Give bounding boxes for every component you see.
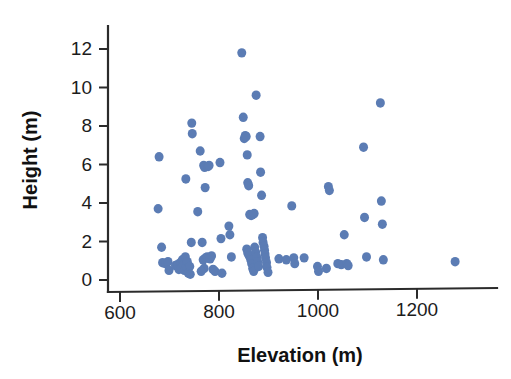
data-points-layer [154, 48, 460, 279]
y-axis-title: Height (m) [19, 111, 41, 210]
data-point [256, 167, 265, 176]
axis-lines [108, 26, 497, 292]
data-point [287, 201, 296, 210]
x-tick-label: 600 [104, 302, 136, 323]
y-tick-label: 6 [81, 154, 92, 175]
data-point [154, 204, 163, 213]
data-point [244, 181, 253, 190]
data-point [344, 261, 353, 270]
data-point [362, 252, 371, 261]
data-point [254, 262, 263, 271]
data-point [250, 209, 259, 218]
data-point [242, 132, 251, 141]
data-point [186, 270, 195, 279]
data-point [198, 238, 207, 247]
plot-canvas: 024681012 60080010001200 Elevation (m) H… [0, 0, 511, 379]
y-tick-label: 10 [71, 77, 92, 98]
data-point [155, 152, 164, 161]
y-tick-label: 12 [71, 38, 92, 59]
data-point [237, 48, 246, 57]
x-tick-label: 1000 [297, 300, 339, 321]
data-point [314, 267, 323, 276]
data-point [359, 142, 368, 151]
scatter-plot-figure: 024681012 60080010001200 Elevation (m) H… [0, 0, 511, 379]
x-axis-title: Elevation (m) [237, 344, 363, 366]
data-point [201, 183, 210, 192]
data-point [197, 267, 206, 276]
data-point [360, 213, 369, 222]
y-tick-label: 8 [81, 115, 92, 136]
data-point [252, 90, 261, 99]
data-point [377, 196, 386, 205]
data-point [300, 253, 309, 262]
data-point [225, 230, 234, 239]
data-point [451, 257, 460, 266]
data-point [187, 118, 196, 127]
data-point [207, 251, 216, 260]
data-point [239, 113, 248, 122]
data-point [196, 146, 205, 155]
x-axis-ticks: 60080010001200 [104, 289, 438, 324]
x-axis-line [108, 288, 497, 292]
data-point [227, 252, 236, 261]
data-point [256, 132, 265, 141]
data-point [325, 186, 334, 195]
data-point [257, 191, 266, 200]
data-point [193, 207, 202, 216]
data-point [379, 255, 388, 264]
y-tick-label: 0 [81, 269, 92, 290]
data-point [181, 174, 190, 183]
data-point [188, 129, 197, 138]
data-point [217, 269, 226, 278]
data-point [376, 98, 385, 107]
data-point [290, 259, 299, 268]
y-tick-label: 4 [81, 192, 92, 213]
y-tick-label: 2 [81, 231, 92, 252]
y-axis-ticks: 024681012 [71, 38, 108, 290]
data-point [243, 150, 252, 159]
x-tick-label: 800 [203, 301, 235, 322]
data-point [157, 243, 166, 252]
data-point [216, 234, 225, 243]
data-point [224, 221, 233, 230]
data-point [378, 219, 387, 228]
x-tick-label: 1200 [396, 299, 438, 320]
data-point [215, 158, 224, 167]
data-point [264, 268, 273, 277]
data-point [205, 161, 214, 170]
data-point [187, 238, 196, 247]
data-point [340, 230, 349, 239]
data-point [322, 264, 331, 273]
